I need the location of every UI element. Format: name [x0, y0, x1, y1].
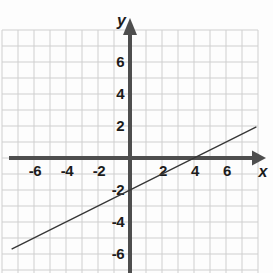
graph-figure: -6-4-2246642-2-4-6 y x	[0, 0, 273, 273]
plotted-line	[12, 127, 257, 249]
y-axis-tick-label: -6	[112, 245, 124, 262]
y-axis-tick-label: -4	[112, 213, 125, 230]
x-axis-tick-label: -4	[61, 162, 74, 179]
x-axis-tick-label: 4	[191, 162, 200, 179]
plot-render-root: -6-4-2246642-2-4-6	[2, 18, 266, 273]
y-axis-tick-label: 4	[116, 85, 125, 102]
y-axis-label: y	[116, 12, 127, 29]
coordinate-plane: -6-4-2246642-2-4-6 y x	[0, 0, 273, 273]
y-axis-tick-label: 2	[116, 117, 124, 134]
x-axis-label: x	[258, 163, 269, 180]
x-axis-tick-label: -2	[93, 162, 105, 179]
x-axis-tick-label: 6	[223, 162, 231, 179]
x-axis-tick-label: 2	[159, 162, 167, 179]
y-axis-tick-label: 6	[116, 53, 124, 70]
x-axis-tick-label: -6	[29, 162, 41, 179]
